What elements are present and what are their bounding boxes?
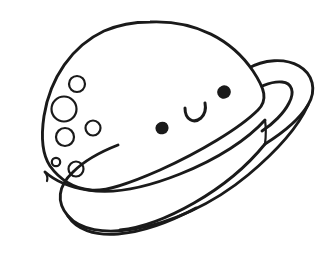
crater-5: [52, 158, 60, 166]
planet-illustration: [0, 0, 327, 268]
artwork-canvas: Cartoon Planet with Ring kawaii saturn p…: [0, 0, 327, 268]
crater-3: [86, 121, 101, 136]
crater-4: [56, 128, 74, 146]
ring-planet-junction-right: [265, 120, 266, 144]
crater-1: [69, 76, 85, 92]
crater-2: [52, 97, 77, 122]
